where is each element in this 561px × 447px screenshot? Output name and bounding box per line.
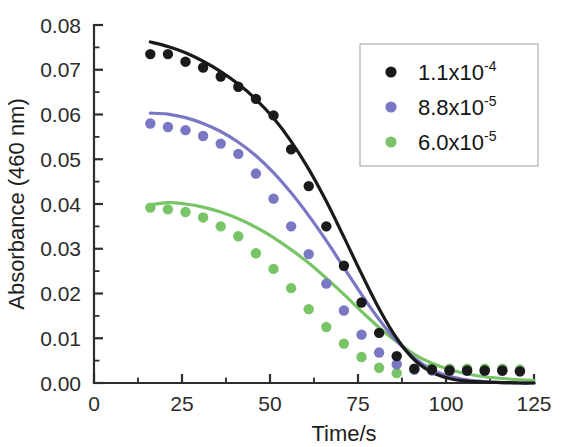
y-tick-label: 0.08 xyxy=(40,14,81,37)
x-axis-title: Time/s xyxy=(311,421,376,446)
data-point xyxy=(374,328,384,338)
data-point xyxy=(321,221,331,231)
legend-exponent: -4 xyxy=(484,58,497,74)
data-point xyxy=(356,329,366,339)
data-point xyxy=(356,297,366,307)
y-tick-label: 0.06 xyxy=(40,103,81,126)
data-point xyxy=(286,221,296,231)
absorbance-kinetics-chart: 0.000.010.020.030.040.050.060.070.080255… xyxy=(0,0,561,447)
y-tick-label: 0.03 xyxy=(40,237,81,260)
x-tick-label: 25 xyxy=(170,392,193,415)
data-point xyxy=(163,49,173,59)
y-tick-label: 0.02 xyxy=(40,282,81,305)
fit-curve-6.0x10-5 xyxy=(150,203,534,381)
data-point xyxy=(198,212,208,222)
data-point xyxy=(163,204,173,214)
y-axis-title: Absorbance (460 nm) xyxy=(4,98,29,310)
data-point xyxy=(497,365,507,375)
legend-marker-0 xyxy=(385,66,396,77)
data-point xyxy=(304,249,314,259)
data-point xyxy=(462,365,472,375)
data-point xyxy=(339,338,349,348)
data-point xyxy=(515,366,525,376)
legend-mantissa: 1.1x10 xyxy=(418,60,484,85)
data-point xyxy=(180,125,190,135)
legend-mantissa: 6.0x10 xyxy=(418,130,484,155)
x-tick-label: 50 xyxy=(258,392,281,415)
legend-exponent: -5 xyxy=(484,93,497,109)
data-point xyxy=(198,62,208,72)
data-point xyxy=(145,202,155,212)
data-point xyxy=(321,278,331,288)
data-point xyxy=(356,352,366,362)
data-point xyxy=(216,71,226,81)
data-point xyxy=(216,221,226,231)
data-point xyxy=(304,181,314,191)
x-tick-label: 0 xyxy=(88,392,100,415)
data-point xyxy=(480,365,490,375)
data-point xyxy=(444,365,454,375)
data-point xyxy=(251,94,261,104)
data-point xyxy=(392,351,402,361)
data-point xyxy=(268,110,278,120)
data-point xyxy=(251,248,261,258)
data-point xyxy=(339,305,349,315)
data-point xyxy=(268,264,278,274)
legend-group: 1.1x10-48.8x10-56.0x10-5 xyxy=(360,44,538,166)
legend-exponent: -5 xyxy=(484,128,497,144)
y-tick-label: 0.07 xyxy=(40,58,81,81)
data-point xyxy=(163,122,173,132)
data-point xyxy=(339,261,349,271)
data-point xyxy=(392,368,402,378)
data-point xyxy=(374,363,384,373)
legend-marker-1 xyxy=(385,101,396,112)
series-points-6.0x10-5 xyxy=(145,202,525,378)
data-point xyxy=(145,49,155,59)
data-point xyxy=(321,322,331,332)
data-point xyxy=(409,363,419,373)
y-tick-label: 0.00 xyxy=(40,372,81,395)
data-point xyxy=(427,364,437,374)
data-point xyxy=(233,82,243,92)
data-point xyxy=(286,144,296,154)
data-point xyxy=(180,207,190,217)
data-point xyxy=(198,131,208,141)
y-tick-label: 0.04 xyxy=(40,193,81,216)
x-tick-label: 125 xyxy=(516,392,551,415)
data-point xyxy=(374,347,384,357)
chart-canvas: 0.000.010.020.030.040.050.060.070.080255… xyxy=(0,0,561,447)
y-tick-label: 0.05 xyxy=(40,148,81,171)
data-point xyxy=(233,231,243,241)
y-tick-label: 0.01 xyxy=(40,327,81,350)
x-tick-label: 75 xyxy=(346,392,369,415)
data-point xyxy=(304,304,314,314)
legend-marker-2 xyxy=(385,136,396,147)
data-point xyxy=(286,283,296,293)
x-tick-label: 100 xyxy=(428,392,463,415)
data-point xyxy=(216,138,226,148)
data-point xyxy=(145,118,155,128)
data-point xyxy=(268,193,278,203)
legend-mantissa: 8.8x10 xyxy=(418,95,484,120)
data-point xyxy=(233,149,243,159)
data-point xyxy=(180,56,190,66)
data-point xyxy=(251,168,261,178)
